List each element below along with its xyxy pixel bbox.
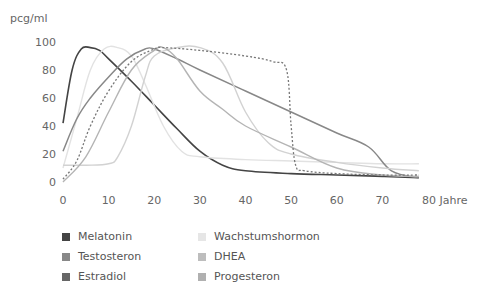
x-tick-label: 60 xyxy=(330,194,344,207)
legend-label: Estradiol xyxy=(78,270,126,283)
series-lines xyxy=(63,46,419,182)
x-axis-ticks: 01020304050607080 Jahre xyxy=(60,194,468,207)
legend-item-dhea: DHEA xyxy=(198,250,245,263)
legend-item-wachstumshormon: Wachstumshormon xyxy=(198,230,320,243)
legend-swatch xyxy=(198,233,206,241)
legend-item-testosteron: Testosteron xyxy=(62,250,141,263)
legend-label: Progesteron xyxy=(214,270,280,283)
legend-item-estradiol: Estradiol xyxy=(62,270,126,283)
series-line-dhea xyxy=(63,46,419,171)
y-axis-ticks: 020406080100 xyxy=(35,36,56,189)
x-tick-label: 20 xyxy=(147,194,161,207)
legend-label: Wachstumshormon xyxy=(214,230,320,243)
x-tick-label: 80 Jahre xyxy=(422,194,468,207)
legend-swatch xyxy=(198,253,206,261)
series-line-wachstumshormon xyxy=(63,46,419,168)
y-tick-label: 20 xyxy=(42,148,56,161)
legend-item-progesteron: Progesteron xyxy=(198,270,280,283)
y-axis-title: pcg/ml xyxy=(10,12,48,25)
x-tick-label: 70 xyxy=(375,194,389,207)
x-tick-label: 30 xyxy=(193,194,207,207)
legend-swatch xyxy=(198,273,206,281)
y-tick-label: 80 xyxy=(42,64,56,77)
y-tick-label: 40 xyxy=(42,120,56,133)
legend-item-melatonin: Melatonin xyxy=(62,230,132,243)
legend-swatch xyxy=(62,233,70,241)
x-tick-label: 10 xyxy=(102,194,116,207)
y-tick-label: 100 xyxy=(35,36,56,49)
x-tick-label: 40 xyxy=(239,194,253,207)
legend-label: DHEA xyxy=(214,250,245,263)
legend-label: Testosteron xyxy=(78,250,141,263)
y-tick-label: 60 xyxy=(42,92,56,105)
legend-swatch xyxy=(62,273,70,281)
x-tick-label: 50 xyxy=(284,194,298,207)
y-tick-label: 0 xyxy=(49,176,56,189)
legend-swatch xyxy=(62,253,70,261)
legend-label: Melatonin xyxy=(78,230,132,243)
x-tick-label: 0 xyxy=(60,194,67,207)
